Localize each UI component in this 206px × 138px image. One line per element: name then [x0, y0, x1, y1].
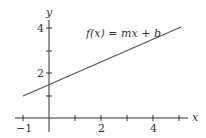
y-axis-label: y	[45, 6, 53, 19]
x-axis-label: x	[192, 111, 199, 124]
x-tick-label-neg1: −1	[16, 122, 32, 135]
equation-annotation: f(x) = mx + b	[85, 27, 161, 40]
x-tick-label-2: 2	[98, 122, 105, 135]
chart: −1 2 4 2 4 x y f(x) = mx + b	[0, 0, 206, 138]
y-tick-label-2: 2	[37, 67, 44, 80]
y-tick-label-4: 4	[37, 22, 44, 35]
x-tick-label-4: 4	[150, 122, 157, 135]
